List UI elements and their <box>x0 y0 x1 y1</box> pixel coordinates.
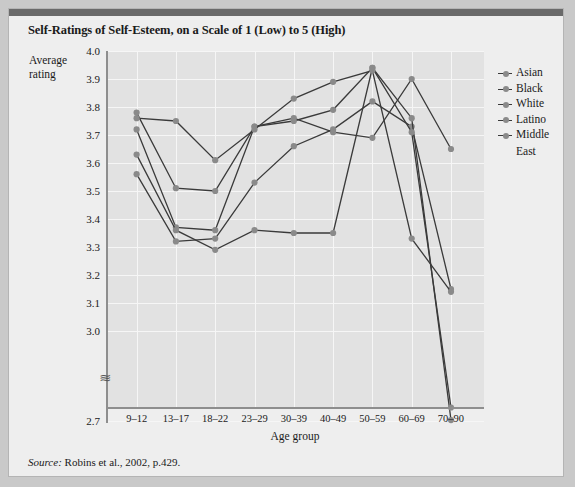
y-axis-label: Average rating <box>29 53 85 81</box>
y-axis-tick-label-break: 2.7 <box>86 415 100 427</box>
x-axis-tick-label: 9–12 <box>126 413 147 424</box>
data-point <box>251 227 257 233</box>
source-text: Robins et al., 2002, p.429. <box>62 456 181 468</box>
legend-label: Black <box>516 82 543 94</box>
y-axis-line-lower <box>106 407 108 423</box>
y-axis-tick-label: 3.3 <box>86 241 100 253</box>
x-axis-tick-label: 50–59 <box>359 413 385 424</box>
legend-marker-icon <box>498 113 513 128</box>
data-point <box>369 68 375 74</box>
data-point <box>369 135 375 141</box>
legend: AsianBlackWhiteLatinoMiddleEast <box>498 66 549 159</box>
legend-item-black[interactable]: Black <box>498 82 549 98</box>
data-point <box>134 126 140 132</box>
legend-label: Asian <box>516 66 543 78</box>
x-axis-label: Age group <box>106 430 484 442</box>
legend-item-latino[interactable]: Latino <box>498 113 549 129</box>
legend-label: White <box>516 97 544 109</box>
y-axis-line <box>106 51 108 407</box>
data-point <box>173 185 179 191</box>
data-point <box>409 76 415 82</box>
legend-marker-icon <box>498 128 513 143</box>
data-point <box>330 129 336 135</box>
y-axis-tick-label: 3.2 <box>86 269 100 281</box>
y-axis-tick-label: 4.0 <box>86 45 100 57</box>
y-axis-tick-label: 3.4 <box>86 213 100 225</box>
data-point <box>291 118 297 124</box>
legend-item-asian[interactable]: Asian <box>498 66 549 82</box>
data-point <box>330 230 336 236</box>
y-axis-tick-label: 3.8 <box>86 101 100 113</box>
data-point <box>134 152 140 158</box>
data-point <box>134 171 140 177</box>
x-axis-tick-label: 60–69 <box>399 413 425 424</box>
y-axis-label-text: Average rating <box>29 54 67 80</box>
legend-item-white[interactable]: White <box>498 97 549 113</box>
data-point <box>212 157 218 163</box>
plot-area: 4.03.93.83.73.63.53.43.33.23.13.02.7 <box>106 51 484 407</box>
data-point <box>173 238 179 244</box>
data-point <box>409 236 415 242</box>
legend-marker-icon <box>498 97 513 112</box>
page-title: Self-Ratings of Self-Esteem, on a Scale … <box>28 23 345 38</box>
series-layer <box>106 51 484 447</box>
y-axis-tick-label: 3.5 <box>86 185 100 197</box>
y-axis-tick-label: 3.0 <box>86 325 100 337</box>
data-point <box>369 98 375 104</box>
data-point <box>212 236 218 242</box>
data-point <box>173 227 179 233</box>
data-point <box>330 107 336 113</box>
data-point <box>409 129 415 135</box>
x-axis-line <box>106 407 484 409</box>
data-point <box>448 289 454 295</box>
x-axis-tick-label: 40–49 <box>320 413 346 424</box>
data-point <box>251 180 257 186</box>
y-axis-tick-label: 3.9 <box>86 73 100 85</box>
figure-header-bar <box>9 9 563 16</box>
data-point <box>212 188 218 194</box>
data-point <box>409 115 415 121</box>
x-axis-tick-label: 70–90 <box>438 413 464 424</box>
series-line <box>137 71 451 292</box>
data-point <box>134 115 140 121</box>
y-axis-tick-label: 3.6 <box>86 157 100 169</box>
legend-label-continued: East <box>516 144 549 160</box>
data-point <box>212 247 218 253</box>
x-axis-tick-label: 18–22 <box>202 413 228 424</box>
figure-panel: Self-Ratings of Self-Esteem, on a Scale … <box>8 8 564 477</box>
y-axis-tick-label: 3.1 <box>86 297 100 309</box>
data-point <box>291 96 297 102</box>
data-point <box>448 146 454 152</box>
source-prefix: Source: <box>28 456 62 468</box>
source-note: Source: Robins et al., 2002, p.429. <box>28 456 180 468</box>
x-axis-tick-label: 30–39 <box>281 413 307 424</box>
y-axis-tick-label: 3.7 <box>86 129 100 141</box>
legend-marker-icon <box>498 66 513 81</box>
data-point <box>173 118 179 124</box>
axis-break-icon: ≋ <box>99 373 112 385</box>
data-point <box>291 143 297 149</box>
x-axis-tick-label: 23–29 <box>241 413 267 424</box>
legend-label: Middle <box>516 128 549 140</box>
data-point <box>212 227 218 233</box>
data-point <box>291 230 297 236</box>
legend-item-middle-east[interactable]: Middle <box>498 128 549 144</box>
data-point <box>251 126 257 132</box>
legend-marker-icon <box>498 82 513 97</box>
legend-label: Latino <box>516 113 546 125</box>
x-axis-tick-label: 13–17 <box>163 413 189 424</box>
data-point <box>330 79 336 85</box>
data-point <box>134 110 140 116</box>
